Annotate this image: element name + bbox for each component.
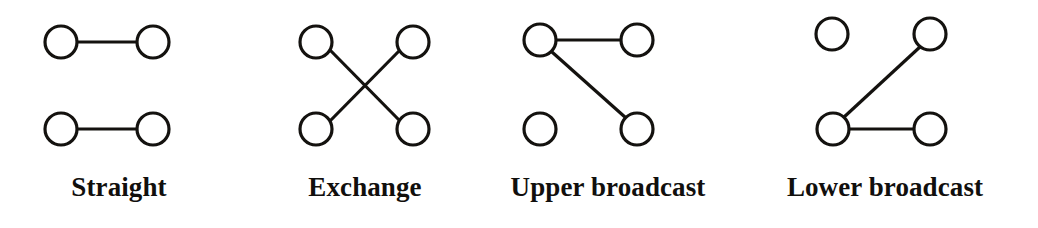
- node-lower-left: [817, 113, 849, 145]
- node-lower-left: [300, 113, 332, 145]
- panel-lower-broadcast: [816, 18, 946, 145]
- node-upper-right: [137, 26, 169, 58]
- node-lower-right: [397, 113, 429, 145]
- link-lower-left-to-upper-right: [843, 46, 921, 118]
- node-lower-right: [137, 113, 169, 145]
- panel-upper-broadcast: [524, 24, 653, 145]
- node-upper-right: [397, 26, 429, 58]
- node-upper-left: [45, 26, 77, 58]
- panel-label-straight: Straight: [4, 172, 234, 202]
- switch-states-figure: Straight Exchange Upper broadcast Lower …: [0, 0, 1038, 228]
- node-lower-right: [914, 113, 946, 145]
- node-lower-right: [621, 113, 653, 145]
- link-upper-left-to-lower-right: [552, 52, 626, 118]
- node-lower-left: [524, 113, 556, 145]
- node-upper-left: [524, 24, 556, 56]
- panel-straight: [45, 26, 169, 145]
- node-upper-left: [816, 18, 848, 50]
- node-lower-left: [45, 113, 77, 145]
- node-upper-right: [621, 24, 653, 56]
- panel-label-exchange: Exchange: [250, 172, 480, 202]
- panel-label-upper-broadcast: Upper broadcast: [497, 172, 719, 202]
- node-upper-left: [300, 26, 332, 58]
- panel-label-lower-broadcast: Lower broadcast: [774, 172, 996, 202]
- panel-exchange: [300, 26, 429, 145]
- node-upper-right: [914, 18, 946, 50]
